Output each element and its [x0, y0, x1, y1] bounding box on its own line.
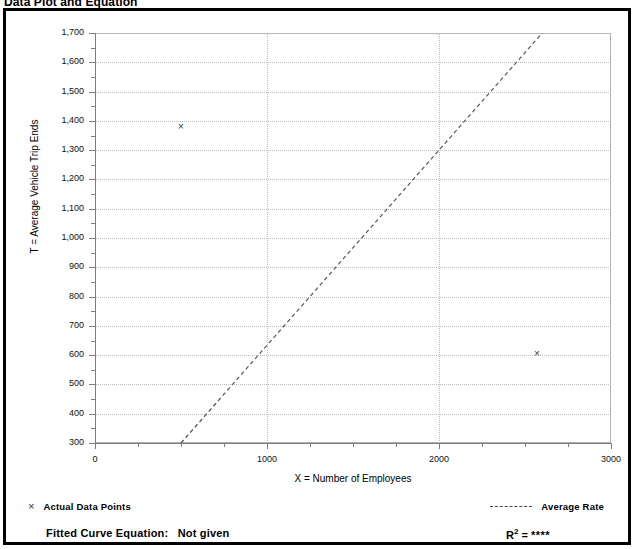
x-axis-minor-tick [181, 443, 182, 447]
x-axis-tick-label: 3000 [581, 454, 636, 464]
fitted-curve-equation: Fitted Curve Equation: Not given [46, 527, 230, 539]
x-axis-minor-tick [353, 443, 354, 447]
x-axis-minor-tick [482, 443, 483, 447]
x-axis-tick [267, 443, 268, 449]
data-point-marker: × [177, 122, 186, 131]
x-axis-minor-tick [396, 443, 397, 447]
legend-item-average-rate: Average Rate [490, 501, 604, 512]
x-axis-tick-label: 2000 [409, 454, 469, 464]
y-axis-title: T = Average Vehicle Trip Ends [29, 97, 40, 277]
x-axis-title: X = Number of Employees [95, 473, 611, 484]
data-point-marker: × [533, 349, 542, 358]
x-axis-minor-tick [568, 443, 569, 447]
y-axis-tick-label: 400 [22, 409, 84, 418]
fitted-curve-equation-label: Fitted Curve Equation: [46, 527, 168, 539]
x-axis-tick [611, 443, 612, 449]
x-axis-minor-tick [138, 443, 139, 447]
cross-marker-icon: × [28, 501, 34, 512]
r-squared-equals: = [518, 529, 531, 541]
chart-legend: × Actual Data Points Average Rate [6, 498, 628, 523]
y-axis-tick-label: 1,500 [22, 87, 84, 96]
dashed-line-icon [490, 506, 532, 507]
average-rate-line [95, 33, 611, 443]
y-axis-tick-label: 700 [22, 321, 84, 330]
y-axis-tick-label: 500 [22, 379, 84, 388]
x-axis-minor-tick [224, 443, 225, 447]
legend-item-data-points: × Actual Data Points [28, 501, 131, 512]
legend-label-average-rate: Average Rate [541, 501, 604, 512]
x-axis-tick [439, 443, 440, 449]
r-squared-value: R2 = **** [506, 527, 550, 541]
y-axis-tick-label: 600 [22, 350, 84, 359]
chart-panel: 3004005006007008009001,0001,1001,2001,30… [3, 8, 631, 545]
y-axis-tick-label: 1,600 [22, 57, 84, 66]
x-axis-minor-tick [310, 443, 311, 447]
y-axis-tick-label: 1,700 [22, 28, 84, 37]
r-squared-label: R [506, 529, 514, 541]
legend-label-data-points: Actual Data Points [43, 501, 131, 512]
chart-area: 3004005006007008009001,0001,1001,2001,30… [6, 11, 628, 498]
x-axis-tick-label: 0 [65, 454, 125, 464]
equation-row: Fitted Curve Equation: Not given R2 = **… [6, 523, 628, 548]
x-axis-tick-label: 1000 [237, 454, 297, 464]
average-rate-line-svg [95, 33, 611, 443]
fitted-curve-equation-value: Not given [178, 527, 230, 539]
y-axis-tick-label: 300 [22, 438, 84, 447]
y-axis-tick-label: 800 [22, 292, 84, 301]
r-squared-number: **** [531, 529, 550, 541]
average-rate-line-path [181, 33, 542, 443]
x-axis-minor-tick [525, 443, 526, 447]
x-axis-tick [95, 443, 96, 449]
